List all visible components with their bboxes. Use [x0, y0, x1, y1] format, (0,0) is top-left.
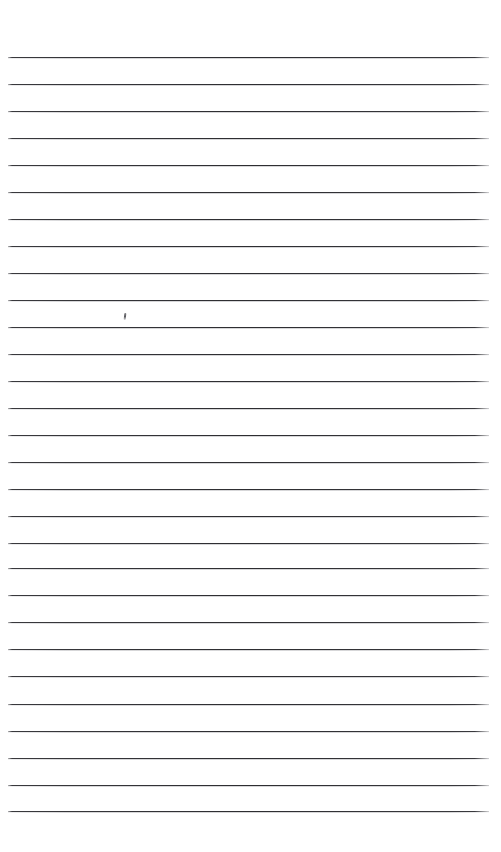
ruled-line: [8, 595, 489, 596]
ruled-line: [8, 408, 489, 409]
ruled-line: [8, 649, 489, 650]
ruled-line: [8, 516, 489, 517]
ruled-line: [8, 758, 489, 759]
scanned-paper-page: Blank ruled paper scan: [0, 0, 501, 852]
ruled-line: [8, 435, 489, 436]
ruled-line: [8, 327, 489, 328]
ruled-line: [8, 704, 489, 705]
ruled-line: [8, 785, 489, 786]
ruled-line: [8, 354, 489, 355]
ruled-line: [8, 219, 489, 220]
ruled-line: [8, 568, 489, 569]
ruled-line: [8, 622, 489, 623]
ruled-line: [8, 192, 489, 193]
ruled-line: [8, 246, 489, 247]
ruled-line: [8, 381, 489, 382]
ruled-line: [8, 462, 489, 463]
ruled-lines-group: [0, 0, 501, 852]
ruled-line: [8, 489, 489, 490]
ruled-line: [8, 731, 489, 732]
ruled-line: [8, 165, 489, 166]
ruled-line: [8, 138, 489, 139]
ruled-line: [8, 111, 489, 112]
ruled-line: [8, 811, 489, 812]
ruled-line: [8, 543, 489, 544]
ruled-line: [8, 57, 489, 58]
ruled-line: [8, 300, 489, 301]
ruled-line: [8, 676, 489, 677]
ruled-line: [8, 273, 489, 274]
ruled-line: [8, 84, 489, 85]
